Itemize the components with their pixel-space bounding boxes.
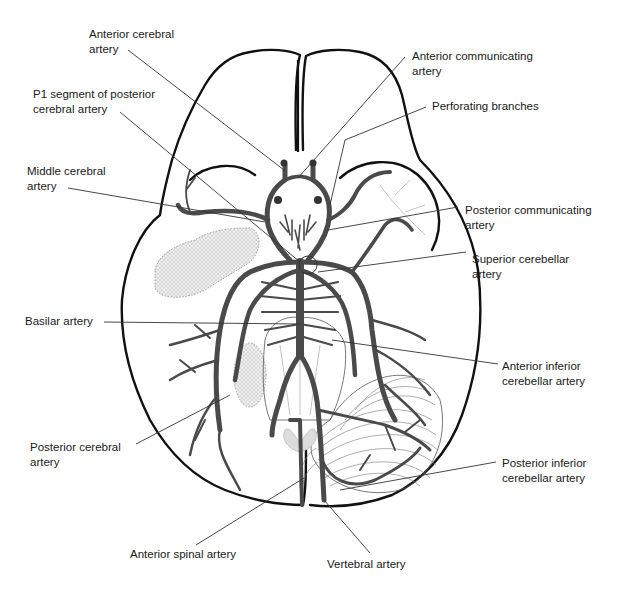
label-basilar-artery: Basilar artery [25, 314, 93, 329]
label-middle-cerebral-artery: Middle cerebral artery [27, 164, 106, 194]
leader-lines [68, 50, 498, 553]
hatched-region-left [155, 228, 259, 297]
label-superior-cerebellar-artery: Superior cerebellar artery [472, 252, 569, 282]
label-posterior-communicating-artery: Posterior communicating artery [465, 203, 592, 233]
label-posterior-cerebral-artery: Posterior cerebral artery [30, 440, 121, 470]
arteries [170, 160, 430, 506]
label-anterior-communicating-artery: Anterior communicating artery [412, 49, 533, 79]
label-p1-segment-posterior-cerebral-artery: P1 segment of posterior cerebral artery [33, 87, 155, 117]
label-posterior-inferior-cerebellar-artery: Posterior inferior cerebellar artery [502, 456, 586, 486]
label-vertebral-artery: Vertebral artery [327, 557, 406, 572]
label-anterior-spinal-artery: Anterior spinal artery [130, 547, 236, 562]
label-perforating-branches: Perforating branches [432, 99, 539, 114]
label-anterior-cerebral-artery: Anterior cerebral artery [89, 27, 174, 57]
label-anterior-inferior-cerebellar-artery: Anterior inferior cerebellar artery [502, 359, 585, 389]
